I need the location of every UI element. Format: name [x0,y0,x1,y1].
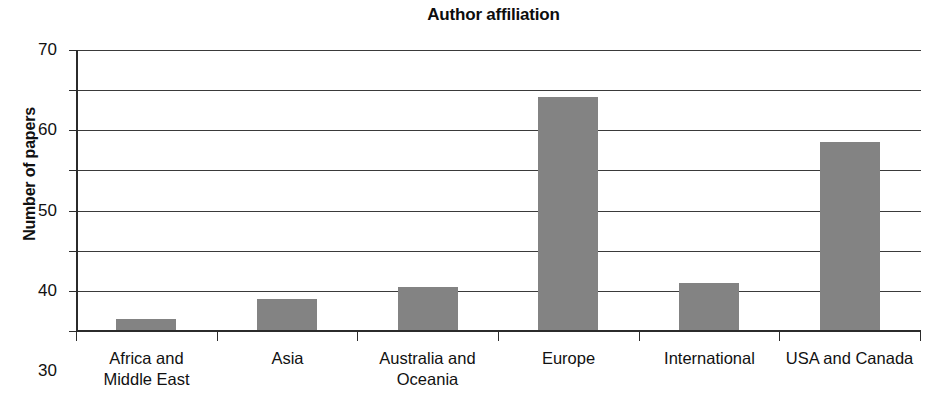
bar [679,283,739,330]
x-axis-category-label: International [639,348,780,369]
y-axis-tick-label: 70 [38,40,57,60]
gridline [76,170,921,171]
gridline [76,90,921,91]
y-axis-tick-mark: 70 [69,50,78,51]
x-axis-tick-mark [76,331,77,341]
x-axis-tick-mark [357,331,358,341]
x-axis-tick-mark [498,331,499,341]
y-axis-tick-label: 30 [38,361,57,381]
y-axis-tick-label: 50 [38,201,57,221]
y-axis-tick-mark: 60 [69,90,78,91]
bar [116,319,176,330]
y-axis-tick-label: 40 [38,281,57,301]
y-axis-tick-mark: 10 [69,291,78,292]
bar [257,299,317,330]
bar [820,142,880,330]
x-axis-category-label: Australia and Oceania [357,348,498,390]
bar [398,287,458,330]
gridline [76,291,921,292]
y-axis-tick-mark: 20 [69,251,78,252]
plot-area: 706050403020100 [76,50,920,331]
chart-title: Author affiliation [0,5,927,25]
gridline [76,130,921,131]
y-axis-line [76,50,78,332]
x-axis-tick-mark [920,331,921,341]
y-axis-tick-mark: 30 [69,211,78,212]
x-axis-tick-mark [779,331,780,341]
gridline [76,251,921,252]
x-axis-category-label: Africa and Middle East [76,348,217,390]
y-axis-tick-mark: 40 [69,170,78,171]
x-axis-tick-mark [639,331,640,341]
bar-chart-figure: Author affiliation Number of papers 7060… [0,0,927,415]
bar [538,97,598,330]
x-axis-category-label: Asia [217,348,358,369]
y-axis-tick-label: 60 [38,120,57,140]
x-axis-tick-mark [217,331,218,341]
x-axis-category-label: Europe [498,348,639,369]
x-axis-category-label: USA and Canada [779,348,920,369]
y-axis-tick-mark: 50 [69,130,78,131]
gridline [76,211,921,212]
gridline [76,50,921,51]
y-axis-title: Number of papers [21,54,39,294]
